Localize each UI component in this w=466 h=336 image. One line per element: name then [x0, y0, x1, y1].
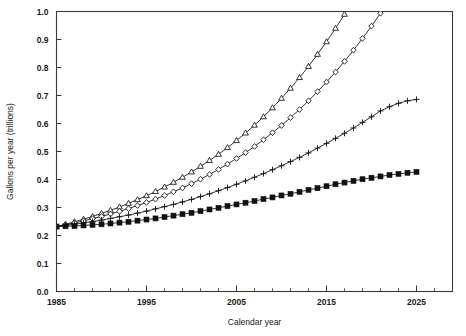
data-point-marker — [171, 213, 176, 218]
data-point-marker — [216, 205, 221, 210]
data-point-marker — [207, 157, 213, 162]
x-axis-tick-label: 1985 — [47, 297, 66, 307]
data-point-marker — [333, 135, 339, 141]
data-point-marker — [297, 189, 302, 194]
x-axis-tick-label: 2005 — [227, 297, 246, 307]
data-point-marker — [189, 169, 195, 174]
data-point-marker — [216, 167, 221, 173]
data-point-marker — [63, 224, 68, 229]
label-layer: 0.00.10.20.30.40.50.60.70.80.91.01985199… — [5, 7, 426, 327]
data-point-marker — [54, 224, 59, 229]
data-point-marker — [216, 188, 222, 194]
data-point-marker — [387, 173, 392, 178]
data-point-marker — [225, 161, 230, 167]
plot-frame — [57, 12, 453, 292]
data-point-marker — [261, 197, 266, 202]
data-point-marker — [324, 184, 329, 189]
data-point-marker — [279, 193, 284, 198]
data-point-marker — [180, 199, 186, 205]
data-point-marker — [315, 145, 321, 151]
data-point-marker — [162, 193, 167, 199]
data-point-marker — [360, 119, 366, 125]
y-axis-tick-label: 0.9 — [37, 35, 49, 45]
data-point-marker — [153, 206, 159, 212]
data-point-marker — [405, 170, 410, 175]
y-axis-tick-label: 1.0 — [37, 7, 49, 17]
data-point-marker — [396, 171, 401, 176]
data-point-marker — [144, 208, 150, 214]
data-point-marker — [189, 210, 194, 215]
series-medium-high-growth-scenario — [54, 10, 383, 229]
data-point-marker — [198, 209, 203, 214]
data-point-marker — [405, 98, 411, 104]
data-point-marker — [333, 25, 339, 30]
data-point-marker — [279, 163, 285, 169]
data-point-marker — [180, 185, 185, 191]
data-point-marker — [153, 189, 159, 194]
chart-container: 0.00.10.20.30.40.50.60.70.80.91.01985199… — [0, 0, 466, 336]
data-point-marker — [288, 159, 294, 165]
data-point-marker — [315, 186, 320, 191]
data-point-marker — [144, 217, 149, 222]
data-point-marker — [270, 195, 275, 200]
y-axis-tick-label: 0.3 — [37, 203, 49, 213]
data-point-marker — [198, 163, 204, 168]
data-point-marker — [261, 137, 266, 143]
data-point-marker — [378, 108, 384, 114]
data-point-marker — [270, 167, 276, 173]
data-point-marker — [207, 172, 212, 178]
data-point-marker — [234, 181, 240, 187]
axis-layer — [57, 12, 453, 292]
data-point-marker — [126, 212, 132, 218]
data-point-marker — [225, 145, 231, 150]
data-point-marker — [360, 177, 365, 182]
series-layer — [54, 10, 420, 229]
y-axis-tick-label: 0.7 — [37, 91, 49, 101]
y-axis-tick-label: 0.4 — [37, 175, 49, 185]
data-point-marker — [72, 223, 77, 228]
data-point-marker — [153, 216, 158, 221]
data-point-marker — [117, 220, 122, 225]
data-point-marker — [108, 215, 114, 221]
y-axis-title: Gallons per year (trillions) — [5, 103, 15, 200]
data-point-marker — [378, 174, 383, 179]
line-chart: 0.00.10.20.30.40.50.60.70.80.91.01985199… — [0, 0, 466, 336]
data-point-marker — [414, 96, 420, 102]
data-point-marker — [234, 202, 239, 207]
data-point-marker — [297, 154, 303, 160]
data-point-marker — [225, 204, 230, 209]
data-point-marker — [162, 204, 168, 210]
data-point-marker — [135, 210, 141, 216]
data-point-marker — [171, 201, 177, 207]
series-line — [57, 13, 381, 226]
series-medium-low-growth-scenario — [54, 96, 420, 229]
data-point-marker — [234, 156, 239, 162]
data-point-marker — [171, 189, 176, 195]
data-point-marker — [189, 181, 194, 187]
data-point-marker — [387, 104, 393, 110]
data-point-marker — [324, 39, 330, 44]
data-point-marker — [117, 209, 122, 215]
data-point-marker — [288, 191, 293, 196]
data-point-marker — [126, 219, 131, 224]
y-axis-tick-label: 0.0 — [37, 287, 49, 297]
data-point-marker — [342, 180, 347, 185]
data-point-marker — [81, 223, 86, 228]
data-point-marker — [198, 194, 204, 200]
data-point-marker — [252, 144, 257, 150]
data-point-marker — [207, 191, 213, 197]
data-point-marker — [306, 150, 312, 156]
data-point-marker — [414, 169, 419, 174]
data-point-marker — [333, 182, 338, 187]
data-point-marker — [207, 207, 212, 212]
data-point-marker — [153, 196, 158, 202]
y-axis-tick-label: 0.2 — [37, 231, 49, 241]
data-point-marker — [396, 100, 402, 106]
data-point-marker — [171, 179, 177, 184]
data-point-marker — [180, 212, 185, 217]
data-point-marker — [189, 196, 195, 202]
x-axis-tick-label: 1995 — [137, 297, 156, 307]
data-point-marker — [117, 214, 123, 220]
data-point-marker — [342, 130, 348, 136]
data-point-marker — [243, 178, 249, 184]
